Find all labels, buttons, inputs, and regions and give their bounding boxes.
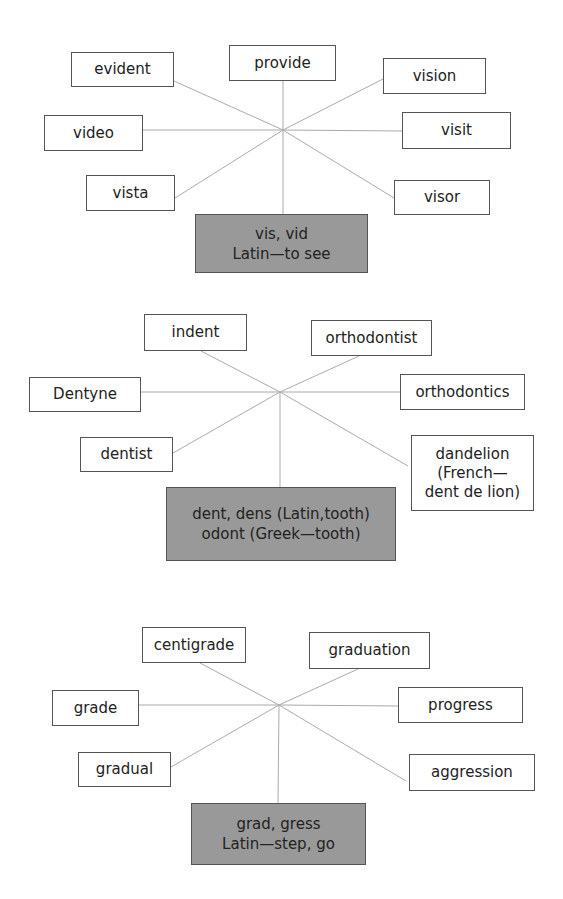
connector-line [280, 392, 408, 466]
word-box: grade [52, 690, 139, 726]
word-box-label: orthodontist [326, 329, 418, 348]
word-box: dandelion (French— dent de lion) [411, 435, 534, 511]
word-box-label: graduation [329, 641, 411, 660]
connector-line [279, 705, 406, 781]
word-box-label: dentist [100, 445, 152, 464]
word-box-label: progress [428, 696, 493, 715]
word-box-label: visit [441, 121, 472, 140]
word-box: graduation [309, 632, 430, 669]
word-box: vision [383, 58, 486, 94]
word-box-label: centigrade [154, 636, 235, 655]
connector-line [173, 392, 280, 453]
word-box: evident [71, 52, 174, 87]
word-box-label: indent [172, 323, 220, 342]
word-box-label: vista [113, 184, 149, 203]
connector-line [280, 356, 359, 392]
root-box-label: grad, gress Latin—step, go [222, 814, 335, 854]
word-box: aggression [409, 754, 535, 791]
word-box-label: video [73, 124, 114, 143]
word-box: dentist [80, 437, 173, 472]
connector-line [200, 663, 279, 705]
word-box-label: Dentyne [53, 385, 117, 404]
word-box-label: gradual [96, 760, 153, 779]
word-box-label: evident [94, 60, 150, 79]
connector-line [283, 130, 394, 198]
connector-line [279, 705, 398, 706]
word-box-label: dandelion (French— dent de lion) [425, 445, 520, 502]
word-box: provide [229, 45, 336, 81]
word-box: visit [402, 112, 511, 149]
root-box-label: dent, dens (Latin,tooth) odont (Greek—to… [192, 504, 370, 544]
word-box-label: aggression [431, 763, 513, 782]
word-box-label: visor [424, 188, 460, 207]
root-box: vis, vid Latin—to see [195, 214, 368, 273]
word-box-label: provide [254, 54, 310, 73]
connector-line [174, 81, 283, 130]
word-box: Dentyne [29, 377, 141, 412]
word-box: orthodontist [311, 320, 432, 356]
word-box: visor [394, 180, 490, 215]
word-box: orthodontics [400, 374, 525, 410]
root-box-label: vis, vid Latin—to see [232, 224, 330, 264]
word-box-label: vision [413, 67, 457, 86]
root-box: grad, gress Latin—step, go [191, 803, 366, 865]
connector-line [175, 130, 283, 198]
root-box: dent, dens (Latin,tooth) odont (Greek—to… [166, 487, 396, 561]
root-stem-line [278, 705, 279, 803]
connector-line [283, 79, 383, 130]
word-box: centigrade [142, 627, 246, 663]
connector-line [283, 130, 402, 131]
word-box: video [44, 115, 143, 151]
connector-line [279, 669, 358, 705]
word-box-label: grade [74, 699, 118, 718]
connector-line [201, 351, 280, 392]
connector-line [171, 705, 279, 767]
word-box-label: orthodontics [415, 383, 509, 402]
word-box: vista [86, 175, 175, 211]
word-box: indent [144, 314, 247, 351]
word-box: gradual [78, 752, 171, 787]
word-box: progress [398, 687, 523, 723]
